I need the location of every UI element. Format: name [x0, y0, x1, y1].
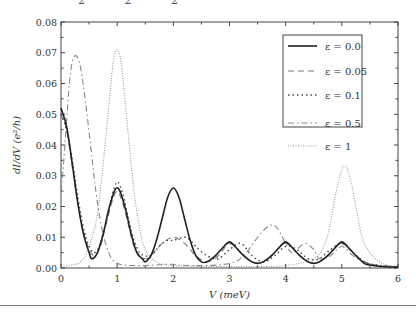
legend: ε = 0.0ε = 0.05ε = 0.1ε = 0.5ε = 1 [283, 35, 367, 152]
x-axis-title: V (meV) [209, 289, 250, 300]
y-tick-label: 0.01 [36, 232, 57, 243]
x-tick-label: 1 [114, 273, 120, 284]
x-tick-label: 2 [170, 273, 176, 284]
y-tick-label: 0.07 [36, 47, 57, 58]
y-tick-label: 0.04 [36, 140, 57, 151]
y-tick-label: 0.08 [36, 17, 57, 28]
legend-label: ε = 0.5 [325, 118, 361, 129]
y-axis-title: dI/dV (e²/h) [11, 116, 22, 174]
conductance-chart: 01234560.000.010.020.030.040.050.060.070… [0, 0, 416, 321]
y-tick-label: 0.05 [36, 109, 57, 120]
x-tick-label: 5 [339, 273, 345, 284]
y-tick-label: 0.06 [36, 78, 57, 89]
x-tick-label: 3 [226, 273, 232, 284]
legend-label: ε = 0.05 [325, 66, 367, 77]
x-tick-label: 0 [58, 273, 64, 284]
x-tick-label: 6 [395, 273, 401, 284]
y-tick-label: 0.00 [36, 263, 57, 274]
series-line [61, 114, 398, 267]
x-tick-label: 4 [283, 273, 289, 284]
series-line [61, 114, 398, 267]
y-tick-label: 0.03 [36, 170, 57, 181]
legend-label: ε = 0.1 [325, 90, 361, 101]
bottom-divider [0, 305, 416, 306]
legend-label: ε = 0.0 [325, 41, 361, 52]
legend-label: ε = 1 [325, 141, 351, 152]
y-tick-label: 0.02 [36, 201, 57, 212]
